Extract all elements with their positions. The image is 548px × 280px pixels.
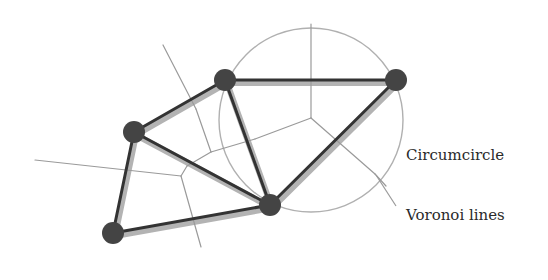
node-b [385, 69, 407, 91]
voronoi-segment [181, 176, 201, 247]
delaunay-edge [113, 132, 134, 233]
voronoi-leader-line [376, 175, 396, 206]
node-d [259, 194, 281, 216]
circumcircle-label: Circumcircle [406, 146, 504, 164]
voronoi-segment [35, 160, 181, 176]
edge-shadow [272, 83, 398, 208]
delaunay-voronoi-diagram [0, 0, 548, 280]
delaunay-edge [113, 205, 270, 233]
edge-shadows [115, 83, 398, 236]
node-e [102, 222, 124, 244]
delaunay-edge [134, 80, 225, 132]
edge-shadow [136, 83, 227, 135]
voronoi-segment [181, 166, 187, 176]
voronoi-segment [255, 118, 311, 139]
node-c [123, 121, 145, 143]
voronoi-segment [196, 109, 211, 152]
node-a [214, 69, 236, 91]
edge-shadow [115, 208, 272, 236]
voronoi-lines-label: Voronoi lines [406, 206, 505, 224]
delaunay-edge [270, 80, 396, 205]
voronoi-segment [311, 118, 375, 174]
edge-shadow [115, 135, 136, 236]
